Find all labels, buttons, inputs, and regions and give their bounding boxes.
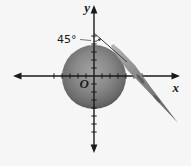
angle-value-label: 45° (57, 33, 77, 46)
y-axis-label: y (82, 0, 90, 15)
coordinate-plane-diagram: 45° y x O (0, 0, 191, 166)
origin-label: O (80, 76, 90, 91)
geometry-figure: 45° y x O (0, 0, 191, 166)
x-axis-label: x (172, 80, 180, 95)
